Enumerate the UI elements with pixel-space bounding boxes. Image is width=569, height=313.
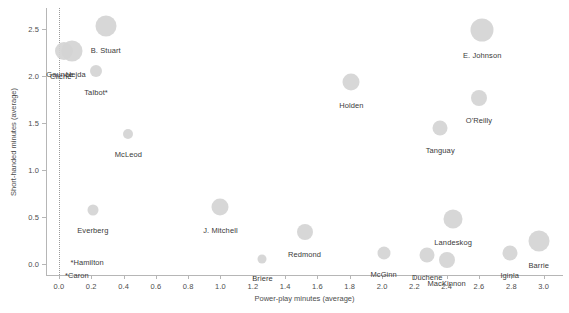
data-point-marker[interactable] (471, 18, 494, 41)
x-tick-label: 1.2 (247, 282, 258, 291)
x-tick-label: 1.4 (280, 282, 291, 291)
y-tick (42, 29, 46, 30)
x-tick-label: 1.6 (312, 282, 323, 291)
data-point-label: Briere (252, 274, 273, 283)
data-point-marker[interactable] (123, 129, 133, 139)
y-tick-label: 0.0 (28, 259, 39, 268)
data-point-label: Redmond (288, 250, 321, 259)
y-tick (42, 170, 46, 171)
x-tick (544, 275, 545, 279)
y-tick-label: 2.0 (28, 71, 39, 80)
data-point-label: Cliche (50, 72, 71, 81)
data-point-label: McLeod (115, 150, 142, 159)
x-tick-label: 0.6 (150, 282, 161, 291)
data-point-label: Everberg (77, 226, 108, 235)
x-tick (91, 275, 92, 279)
y-axis-title: Short-handed minutes (average) (9, 88, 18, 196)
x-tick-label: 0.8 (183, 282, 194, 291)
data-point-marker[interactable] (420, 248, 435, 263)
data-point-marker[interactable] (528, 231, 549, 252)
data-point-label: Tanguay (426, 146, 455, 155)
x-tick (317, 275, 318, 279)
x-tick (220, 275, 221, 279)
data-point-label: *Caron (65, 271, 89, 280)
data-point-marker[interactable] (90, 65, 102, 77)
x-tick-label: 2.6 (474, 282, 485, 291)
data-point-marker[interactable] (212, 199, 229, 216)
x-tick-label: 1.0 (215, 282, 226, 291)
x-tick-label: 0.2 (86, 282, 97, 291)
data-point-label: Talbot* (84, 88, 108, 97)
y-tick-label: 1.5 (28, 118, 39, 127)
x-tick-label: 2.0 (377, 282, 388, 291)
data-point-marker[interactable] (471, 90, 487, 106)
data-point-label: *Hamilton (70, 258, 103, 267)
y-tick-label: 1.0 (28, 165, 39, 174)
x-tick (188, 275, 189, 279)
data-point-label: MacKinnon (427, 279, 465, 288)
data-point-marker[interactable] (297, 224, 313, 240)
x-tick-label: 1.8 (344, 282, 355, 291)
x-tick-label: 0.4 (118, 282, 129, 291)
data-point-marker[interactable] (502, 246, 517, 261)
data-point-marker[interactable] (87, 205, 98, 216)
data-point-marker[interactable] (61, 41, 82, 62)
y-tick (42, 217, 46, 218)
data-point-label: O'Reilly (466, 116, 492, 125)
data-point-marker[interactable] (343, 74, 360, 91)
y-tick (42, 123, 46, 124)
data-point-label: Iginla (500, 271, 519, 280)
data-point-label: Holden (339, 101, 363, 110)
y-tick-label: 2.5 (28, 24, 39, 33)
data-point-label: J. Mitchell (203, 226, 237, 235)
x-tick-label: 2.8 (506, 282, 517, 291)
x-tick-label: 3.0 (538, 282, 549, 291)
data-point-marker[interactable] (444, 209, 463, 228)
y-tick-label: 0.5 (28, 212, 39, 221)
x-tick (350, 275, 351, 279)
x-tick (156, 275, 157, 279)
data-point-label: B. Stuart (91, 46, 121, 55)
x-tick-label: 0.0 (54, 282, 65, 291)
x-tick (59, 275, 60, 279)
x-tick (285, 275, 286, 279)
y-axis-line (46, 8, 47, 275)
data-point-marker[interactable] (433, 121, 448, 136)
x-tick (479, 275, 480, 279)
x-axis-title: Power-play minutes (average) (254, 294, 354, 303)
data-point-label: Landeskog (434, 238, 472, 247)
data-point-marker[interactable] (439, 252, 455, 268)
data-point-label: McGinn (370, 270, 396, 279)
data-point-label: E. Johnson (463, 51, 502, 60)
x-tick-label: 2.2 (409, 282, 420, 291)
y-tick (42, 264, 46, 265)
data-point-marker[interactable] (258, 255, 267, 264)
data-point-marker[interactable] (377, 247, 390, 260)
data-point-marker[interactable] (95, 15, 116, 36)
data-point-label: Barrie (528, 261, 549, 270)
scatter-plot-figure: 0.00.20.40.60.81.01.21.41.61.82.02.22.42… (0, 0, 569, 313)
x-tick (124, 275, 125, 279)
